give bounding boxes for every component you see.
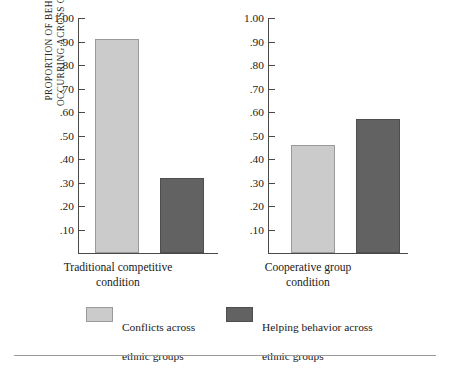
y-axis-tick-labels-panel-2: 1.00 .90 .80 .70 .60 .50 .40 .30 .20 .10 — [230, 18, 264, 254]
bar-helping-cooperative — [356, 119, 400, 253]
legend-swatch-icon-conflicts — [86, 307, 113, 322]
category-label-line-2: condition — [23, 276, 213, 291]
legend-label-line-2: ethnic groups — [262, 349, 373, 363]
category-label-cooperative-group: Cooperative group condition — [213, 261, 403, 290]
legend-label-line-2: ethnic groups — [122, 349, 195, 363]
bar-helping-traditional — [160, 178, 204, 253]
category-label-line-1: Traditional competitive — [23, 261, 213, 276]
y-tick-label: .50 — [250, 131, 264, 142]
y-tick-label: .10 — [60, 225, 74, 236]
legend-label-helping: Helping behavior across ethnic groups — [262, 306, 373, 369]
bottom-divider — [14, 355, 436, 356]
y-tick-label: .70 — [60, 84, 74, 95]
y-tick-label: .40 — [250, 154, 264, 165]
bar-conflicts-traditional — [95, 39, 139, 253]
chart-panel-cooperative-group: 1.00 .90 .80 .70 .60 .50 .40 .30 .20 .10 — [268, 18, 408, 254]
legend-label-line-1: Conflicts across — [122, 320, 195, 334]
y-tick-label: 1.00 — [54, 13, 74, 24]
plot-area-panel-2 — [269, 18, 408, 253]
y-tick-label: 1.00 — [244, 13, 264, 24]
x-axis-line-panel-2 — [268, 253, 408, 254]
y-tick-label: .80 — [250, 60, 264, 71]
bar-conflicts-cooperative — [291, 145, 335, 253]
y-tick-label: .60 — [60, 107, 74, 118]
x-axis-line-panel-1 — [78, 253, 218, 254]
y-tick-label: .50 — [60, 131, 74, 142]
chart-legend: Conflicts across ethnic groups Helping b… — [0, 306, 450, 348]
y-tick-label: .90 — [250, 37, 264, 48]
legend-swatch-icon-helping — [226, 307, 253, 322]
legend-item-helping: Helping behavior across ethnic groups — [226, 306, 373, 369]
legend-item-conflicts: Conflicts across ethnic groups — [86, 306, 195, 369]
chart-panel-traditional-competitive: 1.00 .90 .80 .70 .60 .50 .40 .30 .20 .10 — [78, 18, 218, 254]
bar-chart-figure: PROPORTION OF BEHAVIOR OCCURRING ACROSS … — [0, 0, 450, 369]
plot-area-panel-1 — [79, 18, 218, 253]
legend-label-line-1: Helping behavior across — [262, 320, 373, 334]
y-tick-label: .30 — [250, 178, 264, 189]
y-tick-label: .20 — [60, 201, 74, 212]
y-tick-label: .40 — [60, 154, 74, 165]
y-axis-tick-labels-panel-1: 1.00 .90 .80 .70 .60 .50 .40 .30 .20 .10 — [40, 18, 74, 254]
y-tick-label: .80 — [60, 60, 74, 71]
y-tick-label: .90 — [60, 37, 74, 48]
y-tick-label: .20 — [250, 201, 264, 212]
category-label-traditional-competitive: Traditional competitive condition — [23, 261, 213, 290]
legend-label-conflicts: Conflicts across ethnic groups — [122, 306, 195, 369]
category-label-line-2: condition — [213, 276, 403, 291]
y-tick-label: .70 — [250, 84, 264, 95]
category-label-line-1: Cooperative group — [213, 261, 403, 276]
y-tick-label: .10 — [250, 225, 264, 236]
y-tick-label: .60 — [250, 107, 264, 118]
y-tick-label: .30 — [60, 178, 74, 189]
